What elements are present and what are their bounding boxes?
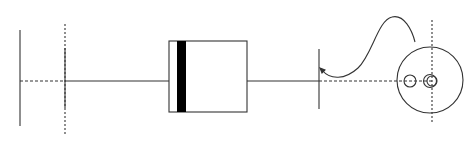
filter-stripe [177, 41, 186, 112]
diagram-canvas [0, 0, 468, 143]
detector-disc [397, 47, 463, 113]
cable-curve [322, 17, 415, 78]
optical-diagram [0, 0, 468, 143]
